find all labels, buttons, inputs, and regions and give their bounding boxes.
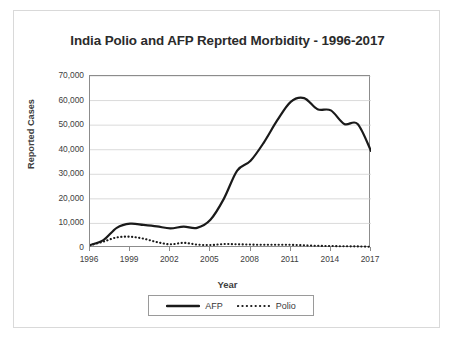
x-tick-mark bbox=[290, 247, 291, 251]
x-tick-mark bbox=[370, 247, 371, 251]
chart-frame: India Polio and AFP Reprted Morbidity - … bbox=[13, 10, 440, 328]
x-tick-mark bbox=[89, 247, 90, 251]
x-axis-title: Year bbox=[14, 279, 441, 290]
series-lines bbox=[90, 98, 371, 247]
legend-item-afp[interactable]: AFP bbox=[166, 301, 223, 311]
chart-title: India Polio and AFP Reprted Morbidity - … bbox=[14, 33, 441, 48]
x-tick-label: 2017 bbox=[350, 254, 390, 264]
y-tick-label: 0 bbox=[36, 242, 84, 252]
y-tick-label: 20,000 bbox=[36, 193, 84, 203]
x-tick-label: 1996 bbox=[69, 254, 109, 264]
y-tick-label: 50,000 bbox=[36, 119, 84, 129]
x-tick-label: 2002 bbox=[149, 254, 189, 264]
chart-legend: AFPPolio bbox=[148, 295, 314, 316]
y-tick-label: 10,000 bbox=[36, 217, 84, 227]
legend-label: Polio bbox=[276, 301, 296, 311]
plot-area bbox=[89, 75, 370, 247]
chart-figure: India Polio and AFP Reprted Morbidity - … bbox=[0, 0, 457, 344]
legend-swatch-dotted-line-icon bbox=[237, 302, 271, 310]
x-tick-label: 2014 bbox=[310, 254, 350, 264]
x-tick-mark bbox=[330, 247, 331, 251]
x-axis-tick-labels: 19961999200220052008201120142017 bbox=[89, 254, 370, 268]
x-tick-label: 2005 bbox=[189, 254, 229, 264]
x-tick-label: 2011 bbox=[270, 254, 310, 264]
y-axis-tick-labels: 010,00020,00030,00040,00050,00060,00070,… bbox=[28, 75, 84, 247]
y-tick-label: 60,000 bbox=[36, 95, 84, 105]
series-line-afp bbox=[90, 98, 371, 245]
x-tick-mark bbox=[209, 247, 210, 251]
y-tick-label: 40,000 bbox=[36, 144, 84, 154]
legend-item-polio[interactable]: Polio bbox=[237, 301, 296, 311]
x-tick-mark bbox=[250, 247, 251, 251]
x-tick-mark bbox=[129, 247, 130, 251]
x-tick-label: 1999 bbox=[109, 254, 149, 264]
legend-label: AFP bbox=[205, 301, 223, 311]
x-tick-mark bbox=[169, 247, 170, 251]
series-line-polio bbox=[90, 237, 371, 247]
plot-svg bbox=[90, 76, 371, 248]
x-tick-label: 2008 bbox=[230, 254, 270, 264]
legend-swatch-solid-line-icon bbox=[166, 302, 200, 310]
gridlines bbox=[90, 76, 371, 223]
y-tick-label: 70,000 bbox=[36, 70, 84, 80]
y-tick-label: 30,000 bbox=[36, 168, 84, 178]
